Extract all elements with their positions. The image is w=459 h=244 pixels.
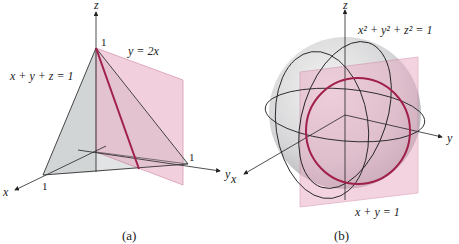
caption-b: (b) [334, 228, 349, 243]
z-axis-label: z [93, 0, 99, 12]
caption-a: (a) [122, 228, 136, 243]
figure-a: z 1 y = 2x x + y + z = 1 1 1 x y (a) [2, 0, 231, 243]
sphere-label: x² + y² + z² = 1 [357, 23, 432, 37]
x-tick-label: 1 [42, 180, 48, 192]
y-axis-label: y [446, 131, 453, 145]
z-tick-label: 1 [101, 36, 107, 48]
y-tick-label: 1 [189, 151, 195, 163]
x-axis-label: x [2, 185, 9, 199]
figure-canvas: z 1 y = 2x x + y + z = 1 1 1 x y (a) z x… [0, 0, 459, 244]
z-axis-label: z [342, 0, 348, 12]
y-axis-label: y [224, 167, 231, 181]
x-axis-label: x [230, 172, 237, 186]
plane-label: x + y + z = 1 [9, 69, 74, 83]
plane-label: x + y = 1 [354, 205, 400, 219]
figure-b: z x² + y² + z² = 1 y x x + y = 1 (b) [230, 0, 453, 243]
cut-plane-label: y = 2x [127, 44, 159, 58]
